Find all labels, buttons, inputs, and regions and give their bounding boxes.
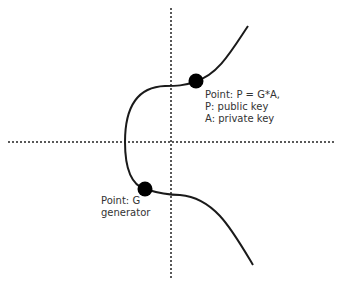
point-p-line-2: P: public key — [205, 101, 280, 113]
point-g-line-2: generator — [101, 207, 150, 219]
point-p-line-1: Point: P = G*A, — [205, 89, 280, 101]
elliptic-curve-diagram — [0, 0, 342, 284]
point-g-line-1: Point: G — [101, 195, 150, 207]
elliptic-curve — [125, 26, 253, 265]
point-p-label: Point: P = G*A, P: public key A: private… — [205, 89, 280, 125]
point-p-line-3: A: private key — [205, 113, 280, 125]
point-p-marker — [189, 74, 204, 89]
point-g-label: Point: G generator — [101, 195, 150, 219]
